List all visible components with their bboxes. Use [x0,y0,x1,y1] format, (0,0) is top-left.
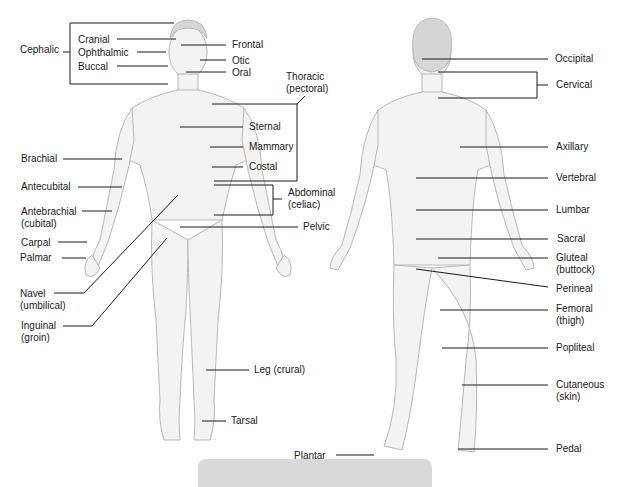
label-lumbar: Lumbar [556,204,590,216]
label-otic: Otic [232,55,250,67]
label-carpal: Carpal [21,237,50,249]
label-pedal: Pedal [556,443,582,455]
label-thoracic: Thoracic(pectoral) [286,71,328,95]
label-occipital: Occipital [555,53,593,65]
label-cranial: Cranial [78,34,110,46]
label-antebrachial: Antebrachial(cubital) [21,206,77,230]
label-leg: Leg (crural) [254,364,305,376]
label-cutaneous: Cutaneous(skin) [556,379,604,403]
label-palmar: Palmar [20,252,52,264]
label-navel: Navel(umbilical) [20,288,66,312]
label-popliteal: Popliteal [556,342,594,354]
label-oral: Oral [232,67,251,79]
label-sacral: Sacral [557,233,585,245]
label-frontal: Frontal [232,39,263,51]
label-brachial: Brachial [21,153,57,165]
posterior-figure [330,18,534,452]
anterior-figure [85,20,291,440]
label-mammary: Mammary [249,141,293,153]
label-cephalic: Cephalic [20,44,59,56]
label-ophthalmic: Ophthalmic [78,47,129,59]
label-antecubital: Antecubital [21,181,70,193]
label-femoral: Femoral(thigh) [556,303,593,327]
label-pelvic: Pelvic [303,221,330,233]
label-sternal: Sternal [249,121,281,133]
bottom-panel [198,459,432,487]
label-costal: Costal [249,161,277,173]
label-axillary: Axillary [556,141,588,153]
label-inguinal: Inguinal(groin) [21,320,56,344]
label-gluteal: Gluteal(buttock) [556,252,595,276]
label-perineal: Perineal [556,283,593,295]
body-regions-diagram: Cephalic Cranial Ophthalmic Buccal Front… [0,0,619,487]
label-abdominal: Abdominal(celiac) [288,187,335,211]
label-tarsal: Tarsal [231,415,258,427]
label-vertebral: Vertebral [556,172,596,184]
label-buccal: Buccal [78,61,108,73]
label-cervical: Cervical [556,79,592,91]
